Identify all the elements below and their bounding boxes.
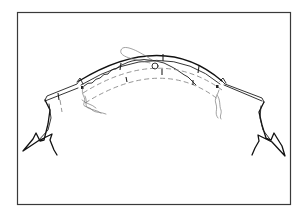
stitch-line-upper	[83, 68, 222, 93]
notch-mark-left	[58, 93, 59, 100]
thread-loop	[121, 47, 160, 69]
gathered-edge	[84, 60, 196, 87]
sewing-seam-diagram	[0, 0, 307, 212]
thread-end-right	[215, 90, 221, 119]
left-panel	[23, 81, 79, 155]
right-panel	[222, 81, 285, 156]
notch-marks	[81, 54, 219, 89]
frame-border	[18, 13, 291, 205]
stitch-line-lower	[85, 78, 219, 103]
